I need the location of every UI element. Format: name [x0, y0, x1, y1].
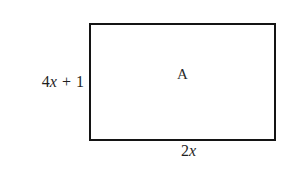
width-expression: 2x [181, 143, 196, 159]
geometry-figure: A 4x + 1 2x [0, 0, 285, 171]
height-constant: 1 [76, 73, 84, 90]
height-dimension-label: 4x + 1 [0, 70, 87, 94]
height-expression: 4x + 1 [42, 74, 84, 90]
height-variable: x [50, 73, 57, 90]
width-variable: x [189, 142, 196, 159]
height-operator: + [61, 73, 72, 90]
rectangle-interior-label: A [91, 25, 274, 139]
width-dimension-label: 2x [89, 143, 276, 167]
height-coefficient: 4 [42, 73, 50, 90]
rectangle-shape: A [89, 23, 276, 141]
width-coefficient: 2 [181, 142, 189, 159]
rectangle-label-a: A [177, 67, 188, 82]
